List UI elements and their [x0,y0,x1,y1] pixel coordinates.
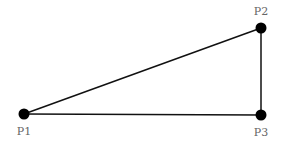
edge-p1-p2 [24,28,261,114]
point-p1 [19,109,30,120]
point-p2 [256,23,267,34]
edge-p1-p3 [24,114,261,115]
label-p3: P3 [254,126,268,139]
label-p1: P1 [17,125,31,138]
label-p2: P2 [254,5,268,18]
point-p3 [256,110,267,121]
triangle-diagram: P1 P2 P3 [0,0,283,141]
